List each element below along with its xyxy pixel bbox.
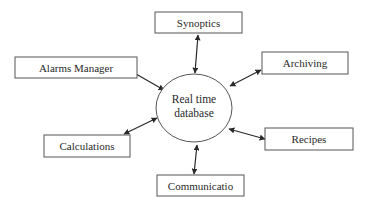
node-label-communicatio: Communicatio (168, 180, 234, 192)
node-label-alarms-manager: Alarms Manager (39, 62, 114, 74)
node-recipes: Recipes (265, 128, 353, 150)
edge-communicatio (194, 145, 197, 174)
center-label-line2: database (174, 107, 214, 119)
node-label-synoptics: Synoptics (177, 17, 220, 29)
node-archiving: Archiving (262, 52, 348, 74)
edge-calculations (124, 118, 157, 134)
edge-archiving (230, 70, 261, 86)
node-calculations: Calculations (44, 135, 130, 157)
node-label-recipes: Recipes (292, 133, 327, 145)
center-label-line1: Real time (172, 93, 216, 105)
edge-synoptics (195, 35, 198, 73)
diagram-canvas: Real time database Synoptics Alarms Mana… (0, 0, 369, 209)
node-alarms-manager: Alarms Manager (15, 57, 137, 78)
center-node-real-time-database: Real time database (156, 74, 232, 142)
node-label-archiving: Archiving (283, 57, 328, 69)
node-label-calculations: Calculations (60, 140, 115, 152)
node-synoptics: Synoptics (155, 12, 242, 33)
node-communicatio: Communicatio (157, 175, 244, 196)
edge-recipes (229, 129, 265, 139)
